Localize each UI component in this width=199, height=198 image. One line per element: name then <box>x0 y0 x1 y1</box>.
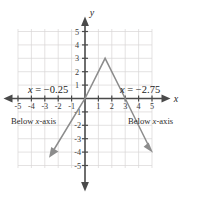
y-tick-label: -4 <box>74 148 81 157</box>
right-equation-value: = −2.75 <box>125 84 160 95</box>
y-tick-label: 4 <box>75 41 79 50</box>
x-axis-label: x <box>173 93 179 104</box>
y-tick-label: -5 <box>74 162 81 171</box>
graph-figure: -5 -4 -3 -2 -1 1 2 3 4 5 5 4 3 2 1 -1 -2… <box>0 0 199 198</box>
curve-right-arrowhead <box>144 143 153 153</box>
x-tick-label: 2 <box>110 102 114 111</box>
right-note-suffix: -axis <box>156 116 173 126</box>
left-equation-value: = −0.25 <box>33 84 68 95</box>
x-tick-label: -3 <box>41 102 48 111</box>
y-tick-label: 5 <box>75 28 79 37</box>
x-tick-label: 3 <box>123 102 127 111</box>
left-equation-label: x = −0.25 <box>27 84 68 95</box>
right-note-prefix: Below <box>128 116 153 126</box>
x-axis-left-arrow <box>4 95 13 103</box>
x-tick-label: 5 <box>150 102 154 111</box>
y-tick-label: -2 <box>74 121 81 130</box>
x-tick-label: 4 <box>137 102 141 111</box>
x-tick-label: -5 <box>15 102 22 111</box>
y-axis-bottom-arrow <box>81 182 89 192</box>
x-axis-right-arrow <box>162 95 171 103</box>
left-note-suffix: -axis <box>39 116 56 126</box>
y-tick-label: 2 <box>75 68 79 77</box>
coordinate-plane-svg: -5 -4 -3 -2 -1 1 2 3 4 5 5 4 3 2 1 -1 -2… <box>0 0 199 198</box>
y-tick-label: 3 <box>75 54 79 63</box>
y-tick-label: -3 <box>74 135 81 144</box>
y-tick-label: 1 <box>75 81 79 90</box>
left-below-axis-note: Below x-axis <box>11 116 57 126</box>
y-axis-top-arrow <box>81 17 89 27</box>
left-note-prefix: Below <box>11 116 36 126</box>
right-equation-label: x = −2.75 <box>119 84 160 95</box>
x-tick-label: -4 <box>28 102 35 111</box>
y-axis-label: y <box>89 7 95 18</box>
right-below-axis-note: Below x-axis <box>128 116 174 126</box>
x-tick-label: 1 <box>96 102 100 111</box>
x-tick-label: -2 <box>55 102 62 111</box>
